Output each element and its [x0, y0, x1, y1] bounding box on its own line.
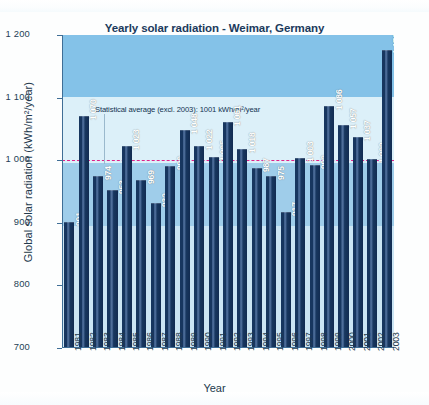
bar-slot: 975	[266, 35, 276, 348]
bar-1983[interactable]	[93, 176, 103, 348]
x-tick-label-1999: 1999	[333, 332, 343, 351]
bar-slot: 992	[310, 35, 320, 348]
y-tick-label-1200: 1 200	[0, 28, 30, 39]
y-tick-mark-700	[57, 348, 62, 349]
bar-2001[interactable]	[353, 137, 363, 348]
bar-slot: 1 048	[180, 35, 190, 348]
bar-slot: 1 022	[194, 35, 204, 348]
bar-1997[interactable]	[295, 158, 305, 348]
x-tick-label-2000: 2000	[347, 332, 357, 351]
x-tick-label-2001: 2001	[362, 332, 372, 351]
x-tick-label-1990: 1990	[203, 332, 213, 351]
bar-1995[interactable]	[266, 176, 276, 348]
y-tick-mark-900	[57, 223, 62, 224]
bar-slot: 1 002	[367, 35, 377, 348]
bar-value-label: 1 176	[391, 35, 394, 54]
bar-slot: 1 070	[79, 35, 89, 348]
bar-slot: 1 176	[382, 35, 392, 348]
bar-2003[interactable]	[382, 50, 392, 348]
x-tick-label-1992: 1992	[232, 332, 242, 351]
y-tick-mark-800	[57, 285, 62, 286]
plot-area: Statistical average (excl. 2003): 1001 k…	[62, 35, 394, 348]
bar-slot: 953	[107, 35, 117, 348]
bar-slot: 1 057	[338, 35, 348, 348]
x-tick-label-1998: 1998	[319, 332, 329, 351]
bar-1988[interactable]	[165, 166, 175, 348]
bar-slot: 974	[93, 35, 103, 348]
bar-1985[interactable]	[122, 146, 132, 348]
bar-1984[interactable]	[107, 190, 117, 348]
bar-slot: 1 086	[324, 35, 334, 348]
scan-artifact-text	[190, 0, 429, 8]
bar-1999[interactable]	[324, 106, 334, 348]
x-tick-label-1984: 1984	[117, 332, 127, 351]
x-tick-label-2002: 2002	[376, 332, 386, 351]
bar-slot: 1 037	[353, 35, 363, 348]
bar-slot: 1 003	[295, 35, 305, 348]
x-tick-label-1996: 1996	[290, 332, 300, 351]
chart-title: Yearly solar radiation - Weimar, Germany	[0, 22, 429, 34]
bar-1987[interactable]	[151, 203, 161, 348]
y-tick-mark-1100	[57, 98, 62, 99]
x-tick-label-1985: 1985	[131, 332, 141, 351]
x-tick-label-1987: 1987	[160, 332, 170, 351]
bar-1981[interactable]	[64, 222, 74, 348]
x-tick-label-1982: 1982	[88, 332, 98, 351]
x-tick-label-1994: 1994	[261, 332, 271, 351]
chart-figure: Yearly solar radiation - Weimar, Germany…	[0, 0, 429, 405]
bar-1982[interactable]	[79, 116, 89, 348]
bar-slot: 917	[281, 35, 291, 348]
bar-1991[interactable]	[209, 157, 219, 348]
bar-2002[interactable]	[367, 159, 377, 348]
bar-1996[interactable]	[281, 212, 291, 348]
scan-artifact-top	[0, 0, 429, 12]
bar-1994[interactable]	[252, 168, 262, 348]
y-axis-title: Global solar radiation (kWh/m²/year)	[22, 52, 34, 292]
bar-slot: 987	[252, 35, 262, 348]
bar-slot: 1 061	[223, 35, 233, 348]
bar-slot: 990	[165, 35, 175, 348]
x-tick-label-1983: 1983	[102, 332, 112, 351]
bar-slot: 1 018	[237, 35, 247, 348]
bar-2000[interactable]	[338, 125, 348, 348]
x-tick-label-1986: 1986	[145, 332, 155, 351]
bar-slot: 932	[151, 35, 161, 348]
bar-1989[interactable]	[180, 130, 190, 348]
x-tick-label-1988: 1988	[174, 332, 184, 351]
bar-1998[interactable]	[310, 165, 320, 348]
x-tick-label-1991: 1991	[218, 332, 228, 351]
bar-1993[interactable]	[237, 149, 247, 348]
bar-slot: 1 023	[122, 35, 132, 348]
bar-slot: 901	[64, 35, 74, 348]
bar-1986[interactable]	[136, 180, 146, 348]
scan-artifact-bottom	[0, 392, 429, 405]
x-tick-label-1993: 1993	[246, 332, 256, 351]
x-tick-label-1981: 1981	[73, 332, 83, 351]
bar-slot: 969	[136, 35, 146, 348]
bar-1990[interactable]	[194, 146, 204, 348]
y-tick-mark-1200	[57, 35, 62, 36]
x-tick-label-1995: 1995	[275, 332, 285, 351]
bar-slot: 1 005	[209, 35, 219, 348]
x-tick-label-1997: 1997	[304, 332, 314, 351]
y-tick-mark-1000	[57, 160, 62, 161]
x-tick-label-1989: 1989	[189, 332, 199, 351]
bar-series: 9011 0709749531 0239699329901 0481 0221 …	[62, 35, 394, 348]
y-tick-label-700: 700	[0, 341, 30, 352]
x-tick-label-2003: 2003	[391, 332, 401, 351]
bar-1992[interactable]	[223, 122, 233, 348]
